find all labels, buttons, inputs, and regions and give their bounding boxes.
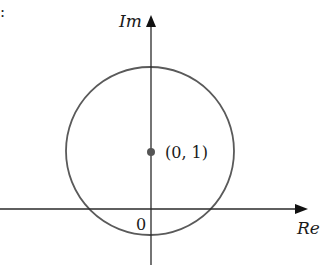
imaginary-axis-arrow-icon	[146, 15, 156, 27]
real-axis-label: Re	[296, 218, 320, 238]
center-label: (0, 1)	[165, 143, 208, 162]
origin-label: 0	[136, 215, 146, 234]
real-axis-arrow-icon	[295, 204, 308, 214]
corner-mark: :	[0, 3, 5, 21]
complex-plane-diagram: : Im Re 0 (0, 1)	[0, 0, 322, 265]
center-point	[147, 148, 155, 156]
imaginary-axis-label: Im	[118, 11, 142, 31]
diagram-svg: : Im Re 0 (0, 1)	[0, 0, 322, 265]
